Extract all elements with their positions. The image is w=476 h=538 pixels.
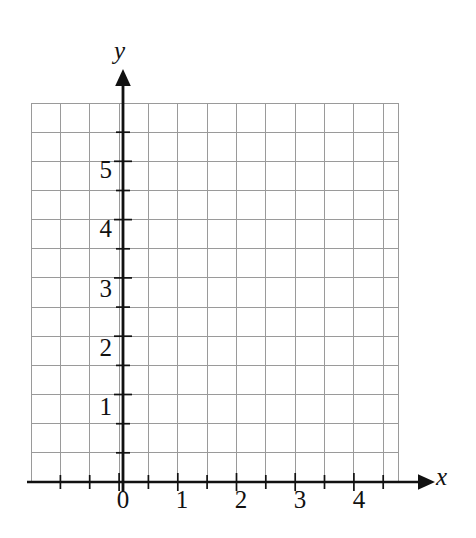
y-tick-label-5: 5 [78, 157, 112, 182]
y-tick-label-3: 3 [78, 276, 112, 301]
y-tick-label-2: 2 [78, 335, 112, 360]
x-tick-label-3: 3 [283, 487, 317, 512]
figure-background [0, 0, 476, 538]
x-tick-label-0: 0 [106, 487, 140, 512]
x-tick-label-2: 2 [224, 487, 258, 512]
x-tick-label-1: 1 [165, 487, 199, 512]
y-axis-label: y [114, 38, 125, 63]
x-tick-label-4: 4 [342, 487, 376, 512]
plot-svg [0, 0, 476, 538]
y-tick-label-1: 1 [78, 394, 112, 419]
y-tick-label-4: 4 [78, 216, 112, 241]
coordinate-grid-figure: y x 0 1 2 3 4 1 2 3 4 5 [0, 0, 476, 538]
x-axis-label: x [436, 464, 447, 489]
